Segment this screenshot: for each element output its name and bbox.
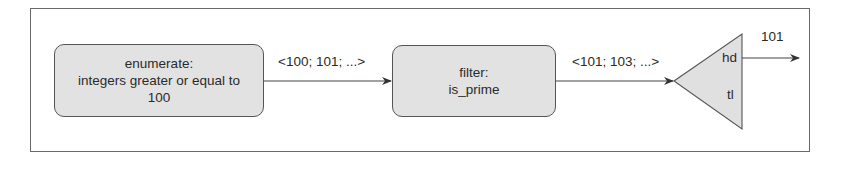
filter-node-line-1: filter:	[459, 64, 488, 81]
edge-label-filter-split: <101; 103; ...>	[572, 54, 659, 69]
edge-label-enumerate-filter: <100; 101; ...>	[278, 54, 365, 69]
enumerate-node: enumerate: integers greater or equal to …	[54, 44, 264, 117]
split-tail-port-label: tl	[727, 87, 734, 102]
enumerate-node-line-2: integers greater or equal to	[78, 72, 240, 89]
enumerate-node-line-1: enumerate:	[125, 55, 193, 72]
filter-node: filter: is_prime	[392, 45, 556, 117]
filter-node-line-2: is_prime	[448, 81, 499, 98]
enumerate-node-line-3: 100	[148, 89, 171, 106]
split-head-port-label: hd	[722, 50, 737, 65]
edge-label-output: 101	[761, 29, 784, 44]
split-triangle	[674, 34, 742, 129]
